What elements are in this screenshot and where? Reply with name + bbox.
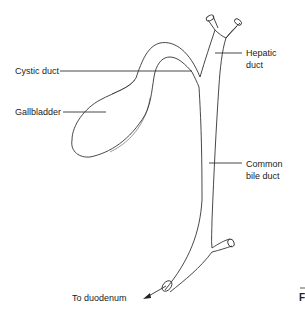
cut-off-figure-label: F: [299, 292, 305, 303]
label-hepatic-duct-1: Hepatic: [246, 48, 277, 59]
label-common-bile-duct-2: bile duct: [246, 171, 280, 182]
label-hepatic-duct-2: duct: [246, 60, 263, 71]
label-cystic-duct: Cystic duct: [15, 66, 59, 77]
label-common-bile-duct-1: Common: [246, 159, 283, 170]
cystic-duct: [136, 43, 200, 78]
gallbladder-outline: [72, 72, 155, 157]
label-to-duodenum: To duodenum: [72, 293, 127, 304]
arrow-head-icon: [143, 293, 151, 299]
label-gallbladder: Gallbladder: [15, 107, 61, 118]
